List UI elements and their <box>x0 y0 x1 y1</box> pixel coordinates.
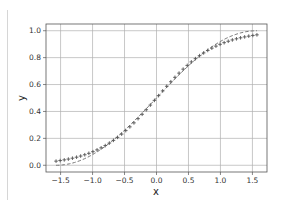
plus-marker <box>214 44 218 48</box>
plus-marker <box>132 121 136 125</box>
plus-marker <box>62 158 66 162</box>
x-tick-label: 1.5 <box>246 176 258 185</box>
plus-marker <box>218 43 222 47</box>
chart: −1.5−1.0−0.50.00.51.01.5 0.00.20.40.60.8… <box>0 0 281 206</box>
y-tick-label: 1.0 <box>29 26 41 35</box>
plus-marker <box>255 33 259 37</box>
y-tick-label: 0.2 <box>29 134 41 143</box>
plus-marker <box>54 159 58 163</box>
x-axis-ticks: −1.5−1.0−0.50.00.51.01.5 <box>51 172 258 185</box>
plus-marker <box>235 37 239 41</box>
x-tick-label: 1.0 <box>214 176 226 185</box>
plus-marker <box>169 80 173 84</box>
plus-marker <box>165 84 169 88</box>
plus-marker <box>91 150 95 154</box>
plus-marker <box>99 146 103 150</box>
plus-marker <box>226 39 230 43</box>
x-tick-label: −1.5 <box>51 176 69 185</box>
plus-marker <box>58 159 62 163</box>
plus-marker <box>120 132 124 136</box>
plus-marker <box>173 76 177 80</box>
plus-marker <box>128 125 132 129</box>
plus-marker <box>79 154 83 158</box>
plus-marker <box>210 46 214 50</box>
plus-marker <box>243 35 247 39</box>
y-tick-label: 0.6 <box>29 80 41 89</box>
plus-marker <box>136 117 140 121</box>
y-tick-label: 0.8 <box>29 53 41 62</box>
y-tick-label: 0.0 <box>29 161 41 170</box>
plus-marker <box>231 38 235 42</box>
plus-marker <box>222 41 226 45</box>
plus-marker <box>181 67 185 71</box>
plus-marker <box>75 155 79 159</box>
plus-marker <box>144 108 148 112</box>
y-tick-label: 0.4 <box>29 107 41 116</box>
plus-marker <box>83 153 87 157</box>
plus-marker <box>177 71 181 75</box>
x-tick-label: 0.5 <box>183 176 195 185</box>
plus-marker <box>87 152 91 156</box>
plus-marker <box>140 112 144 116</box>
x-tick-label: −0.5 <box>115 176 133 185</box>
y-axis-label: y <box>16 95 27 101</box>
x-tick-label: 0.0 <box>151 176 163 185</box>
plus-marker <box>239 36 243 40</box>
plus-marker <box>67 157 71 161</box>
x-axis-label: x <box>153 186 159 197</box>
plus-marker <box>247 34 251 38</box>
plus-marker <box>206 49 210 53</box>
plus-marker <box>190 60 194 64</box>
plus-marker <box>251 34 255 38</box>
x-tick-label: −1.0 <box>83 176 101 185</box>
plus-marker <box>71 156 75 160</box>
y-axis-ticks: 0.00.20.40.60.81.0 <box>29 26 46 170</box>
